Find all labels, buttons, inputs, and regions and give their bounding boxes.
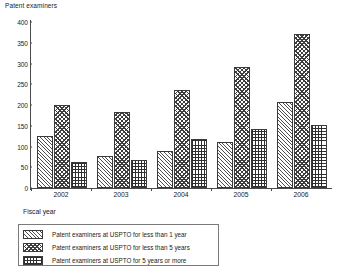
y-tick-mark-150 [30,125,32,126]
y-tick-label-250: 250 [17,81,28,88]
plot-area [31,22,331,188]
x-tick-label-2003: 2003 [91,191,151,198]
y-tick-label-150: 150 [17,122,28,129]
x-tick-mark-2002 [31,188,32,191]
bar-2003-series-3 [131,160,148,188]
legend-item-3: Patent examiners at USPTO for 5 years or… [23,254,218,266]
x-tick-mark-2003 [91,188,92,191]
legend-label-3: Patent examiners at USPTO for 5 years or… [52,257,186,264]
x-tick-label-2002: 2002 [31,191,91,198]
chart-legend: Patent examiners at USPTO for less than … [18,224,219,266]
legend-swatch-checker-icon [23,243,43,252]
y-tick-label-0: 0 [24,185,28,192]
x-axis-title: Fiscal year [23,208,56,215]
bar-2004-series-2 [174,90,191,188]
bar-group-2003 [91,22,151,188]
bar-group-2002 [31,22,91,188]
y-tick-mark-250 [30,84,32,85]
bar-2004-series-3 [191,139,208,188]
y-tick-label-50: 50 [21,164,28,171]
bar-2002-series-1 [37,136,54,188]
bar-2003-series-2 [114,112,131,188]
x-tick-mark-2005 [211,188,212,191]
bar-2006-series-2 [294,34,311,188]
x-tick-mark-2004 [151,188,152,191]
y-tick-mark-300 [30,63,32,64]
y-tick-mark-50 [30,167,32,168]
bar-2005-series-2 [234,67,251,188]
legend-item-2: Patent examiners at USPTO for less than … [23,241,218,253]
y-tick-label-200: 200 [17,102,28,109]
legend-label-1: Patent examiners at USPTO for less than … [52,231,187,238]
legend-label-2: Patent examiners at USPTO for less than … [52,244,190,251]
bar-2003-series-1 [97,156,114,188]
bar-2005-series-1 [217,142,234,188]
x-tick-label-2005: 2005 [211,191,271,198]
x-tick-label-2006: 2006 [271,191,331,198]
bar-2005-series-3 [251,129,268,188]
bar-2002-series-2 [54,105,71,188]
bar-chart: Patent examiners 05010015020025030035040… [0,0,338,274]
y-tick-label-400: 400 [17,19,28,26]
bar-group-2006 [271,22,331,188]
y-tick-label-350: 350 [17,39,28,46]
bar-2004-series-1 [157,151,174,188]
legend-swatch-grid-icon [23,256,43,265]
y-tick-mark-350 [30,42,32,43]
bar-2002-series-3 [71,162,88,188]
x-tick-mark-2006 [271,188,272,191]
legend-item-1: Patent examiners at USPTO for less than … [23,228,218,240]
bar-group-2004 [151,22,211,188]
y-tick-mark-400 [30,22,32,23]
y-tick-label-300: 300 [17,60,28,67]
bar-group-2005 [211,22,271,188]
bar-2006-series-1 [277,102,294,188]
y-tick-mark-200 [30,105,32,106]
y-tick-label-100: 100 [17,143,28,150]
y-tick-mark-100 [30,146,32,147]
bar-2006-series-3 [311,125,328,188]
x-axis-line [30,188,332,189]
legend-swatch-diagonal-hatch-icon [23,230,43,239]
x-tick-label-2004: 2004 [151,191,211,198]
